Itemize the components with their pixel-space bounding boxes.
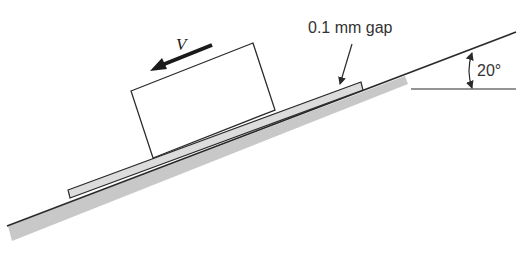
incline-diagram: V 0.1 mm gap 20° (0, 0, 521, 256)
velocity-label: V (176, 35, 189, 54)
gap-label: 0.1 mm gap (308, 19, 393, 36)
angle-label: 20° (477, 62, 501, 79)
incline-surface-line (7, 32, 516, 226)
angle-arc (469, 53, 472, 88)
gap-leader-arrow (340, 44, 352, 84)
